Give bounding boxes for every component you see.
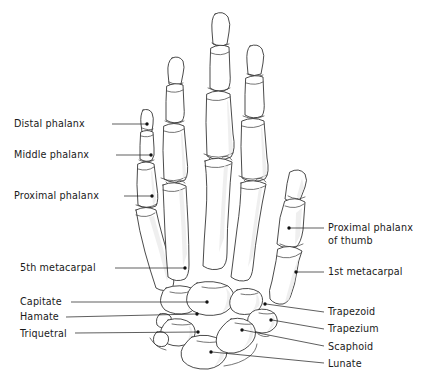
carpal-bones: [150, 282, 277, 370]
label-middle-phalanx: Middle phalanx: [14, 149, 89, 160]
label-hamate: Hamate: [20, 311, 59, 322]
finger-2: [239, 45, 268, 184]
finger-3: [204, 13, 234, 163]
bone-drawing: [136, 13, 307, 370]
label-proximal-phalanx-of-thumb-line2: of thumb: [328, 235, 373, 246]
finger-4: [161, 57, 188, 185]
leader-dot-distal-phalanx: [145, 122, 148, 125]
label-capitate: Capitate: [20, 296, 62, 307]
leader-lunate: [212, 352, 324, 363]
label-trapezoid: Trapezoid: [327, 306, 375, 317]
label-first-metacarpal: 1st metacarpal: [328, 266, 403, 277]
leader-hamate: [66, 314, 196, 317]
leader-dot-first-metacarpal: [294, 270, 297, 273]
leader-dot-proximal-phalanx: [150, 194, 153, 197]
leader-dot-capitate: [205, 300, 208, 303]
leader-dot-lunate: [209, 350, 212, 353]
thumb: [269, 170, 306, 304]
leader-dot-trapezium: [269, 318, 272, 321]
label-lunate: Lunate: [328, 358, 362, 369]
label-distal-phalanx: Distal phalanx: [14, 118, 85, 129]
label-scaphoid: Scaphoid: [328, 341, 373, 352]
label-fifth-metacarpal: 5th metacarpal: [20, 262, 96, 273]
leader-trapezoid: [266, 304, 324, 312]
hand-skeleton-diagram: Distal phalanx Middle phalanx Proximal p…: [0, 0, 433, 384]
leader-dot-fifth-metacarpal: [183, 266, 186, 269]
leader-trapezium: [272, 320, 324, 329]
leader-dot-hamate: [195, 312, 198, 315]
leader-dot-scaphoid: [240, 328, 243, 331]
leader-dot-triquetral: [196, 330, 199, 333]
label-proximal-phalanx-of-thumb: Proximal phalanx: [328, 222, 413, 233]
label-triquetral: Triquetral: [19, 328, 67, 339]
leader-dot-middle-phalanx: [149, 153, 152, 156]
leader-scaphoid: [243, 330, 324, 346]
leader-dot-proximal-phalanx-of-thumb: [287, 226, 290, 229]
leader-dot-trapezoid: [263, 302, 266, 305]
label-proximal-phalanx: Proximal phalanx: [14, 190, 99, 201]
label-trapezium: Trapezium: [327, 323, 379, 334]
